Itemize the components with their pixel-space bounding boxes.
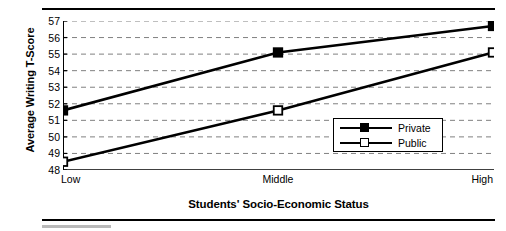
filled-square-icon — [360, 123, 369, 132]
chart-legend: Private Public — [333, 118, 443, 152]
y-axis-title: Average Writing T-Score — [24, 0, 36, 180]
legend-label: Public — [398, 137, 427, 149]
y-tick-label: 55 — [40, 49, 60, 60]
top-divider-rule — [42, 8, 495, 10]
y-tick-label: 56 — [40, 33, 60, 44]
figure-panel: Average Writing T-Score 5756555453525150… — [0, 0, 506, 231]
y-tick-label: 53 — [40, 82, 60, 93]
x-tick-label: Middle — [263, 173, 294, 185]
y-tick-label: 54 — [40, 66, 60, 77]
x-tick-label: Low — [61, 173, 80, 185]
y-tick-label: 50 — [40, 132, 60, 143]
open-square-icon — [360, 138, 369, 147]
y-tick-label: 48 — [40, 165, 60, 176]
x-axis-title: Students' Socio-Economic Status — [63, 198, 494, 210]
y-axis-tick-labels: 57565554535251504948 — [38, 0, 60, 231]
y-tick-label: 49 — [40, 148, 60, 159]
footer-accent-bar — [42, 225, 111, 228]
legend-entry-public: Public — [334, 135, 442, 151]
legend-entry-private: Private — [334, 120, 442, 136]
y-tick-label: 57 — [40, 16, 60, 27]
x-tick-label: High — [471, 173, 493, 185]
bottom-divider-rule — [42, 219, 495, 221]
legend-label: Private — [398, 122, 431, 134]
y-tick-label: 52 — [40, 99, 60, 110]
y-tick-label: 51 — [40, 115, 60, 126]
